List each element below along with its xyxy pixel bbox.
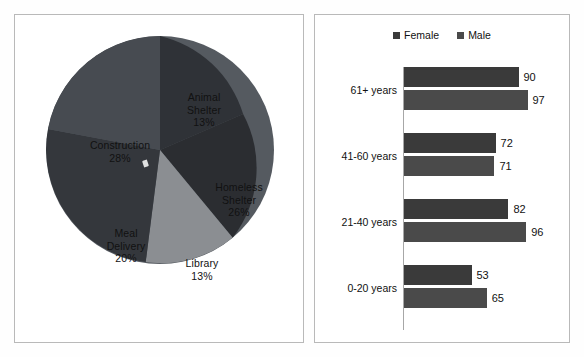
bar-value-male-21-40: 96 [526,226,543,238]
category-label-41-60: 41-60 years [315,150,397,162]
bar-male-21-40[interactable] [404,222,526,242]
pie-label-library-percent: 13% [173,270,231,283]
pie-label-homeless-shelter-percent: 26% [203,206,275,219]
bar-male-0-20[interactable] [404,288,487,308]
pie-label-animal-shelter-line1: Animal [188,91,221,103]
legend-label-female: Female [404,29,439,41]
bar-value-female-0-20: 53 [472,269,489,281]
bar-group-0-20: 0-20 years 53 65 [315,263,569,315]
pie-label-meal-delivery-line2: Delivery [107,240,146,252]
category-label-0-20: 0-20 years [315,282,397,294]
pie-label-library-line1: Library [186,257,219,269]
bar-female-61-plus[interactable] [404,67,519,87]
category-label-21-40: 21-40 years [315,216,397,228]
pie-label-meal-delivery-percent: 20% [93,252,159,265]
bar-plot-area: 61+ years 90 97 41-60 years 72 [315,57,569,332]
bar-group-61-plus: 61+ years 90 97 [315,65,569,117]
legend-swatch-female-icon [393,32,400,39]
bar-male-41-60[interactable] [404,156,494,176]
figure-canvas: Animal Shelter 13% Homeless Shelter 26% … [0,0,584,357]
bar-female-0-20[interactable] [404,265,472,285]
bar-value-female-41-60: 72 [496,137,513,149]
bar-value-male-41-60: 71 [494,160,511,172]
bar-value-female-21-40: 82 [508,203,525,215]
pie-label-meal-delivery: Meal Delivery 20% [93,227,159,265]
pie-label-homeless-shelter-line2: Shelter [222,194,256,206]
pie-label-construction: Construction 28% [72,139,168,164]
pie-label-homeless-shelter-line1: Homeless [215,181,262,193]
pie-label-animal-shelter-line2: Shelter [187,104,221,116]
pie-chart: Animal Shelter 13% Homeless Shelter 26% … [27,29,293,324]
legend-item-male[interactable]: Male [457,29,491,41]
bar-chart-panel: Female Male 61+ years 90 [314,14,570,343]
bar-chart-legend: Female Male [315,29,569,41]
pie-label-library: Library 13% [173,257,231,282]
bar-group-21-40: 21-40 years 82 96 [315,197,569,249]
pie-label-construction-percent: 28% [72,152,168,165]
bar-value-male-0-20: 65 [487,292,504,304]
bar-chart: Female Male 61+ years 90 [315,15,569,342]
bar-value-female-61-plus: 90 [519,71,536,83]
legend-item-female[interactable]: Female [393,29,439,41]
legend-swatch-male-icon [457,32,464,39]
legend-label-male: Male [468,29,491,41]
bar-group-41-60: 41-60 years 72 71 [315,131,569,183]
bar-male-61-plus[interactable] [404,90,528,110]
pie-label-meal-delivery-line1: Meal [114,227,137,239]
bar-female-41-60[interactable] [404,133,496,153]
pie-label-construction-line1: Construction [90,139,150,151]
pie-label-animal-shelter-percent: 13% [173,116,235,129]
pie-label-animal-shelter: Animal Shelter 13% [173,91,235,129]
category-label-61-plus: 61+ years [315,84,397,96]
bar-female-21-40[interactable] [404,199,508,219]
pie-label-homeless-shelter: Homeless Shelter 26% [203,181,275,219]
pie-chart-panel: Animal Shelter 13% Homeless Shelter 26% … [14,14,304,343]
bar-value-male-61-plus: 97 [528,94,545,106]
